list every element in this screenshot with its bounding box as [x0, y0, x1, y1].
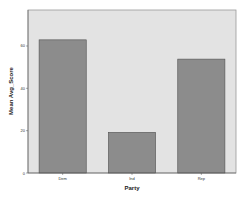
y-axis-title: Mean Avg_Score: [8, 66, 14, 115]
bar-ind: [108, 132, 155, 173]
bar-dem: [39, 40, 86, 173]
y-tick-label: 20: [21, 128, 26, 133]
x-tick-label: Dem: [58, 176, 67, 181]
x-axis: DemIndRep: [28, 173, 236, 181]
bar-rep: [178, 59, 225, 173]
y-tick-label: 40: [21, 86, 26, 91]
y-tick-label: 0: [23, 171, 26, 176]
x-tick-label: Ind: [129, 176, 135, 181]
x-tick-label: Rep: [198, 176, 206, 181]
bar-chart: 0204060 DemIndRep Party Mean Avg_Score: [0, 0, 247, 200]
y-axis: 0204060: [21, 10, 28, 176]
x-axis-title: Party: [124, 185, 140, 191]
y-tick-label: 60: [21, 43, 26, 48]
